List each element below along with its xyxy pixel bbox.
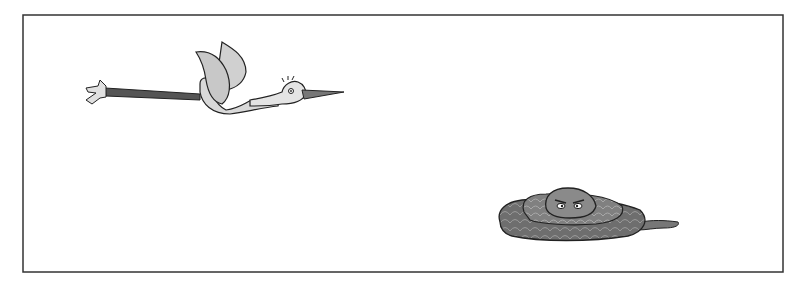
- stork-neck: [250, 81, 306, 106]
- picture-frame: [23, 15, 783, 272]
- stork: [86, 42, 344, 114]
- snake: [499, 188, 678, 241]
- stork-crest: [282, 76, 294, 82]
- snake-head: [546, 188, 596, 218]
- stork-legs: [105, 88, 200, 100]
- stork-beak: [302, 90, 344, 99]
- illustration-canvas: [0, 0, 792, 286]
- stork-feet: [86, 80, 106, 104]
